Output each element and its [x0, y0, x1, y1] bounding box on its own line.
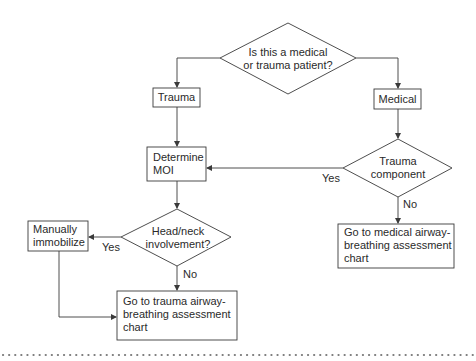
- medical-label: Medical: [374, 93, 421, 106]
- trauma-airway-line2: breathing assessment: [123, 308, 231, 321]
- trauma-text: Trauma: [153, 91, 200, 104]
- medical-airway-line3: chart: [344, 252, 452, 265]
- determine-moi-label: Determine MOI: [153, 151, 204, 177]
- immobilize-line1: Manually: [33, 223, 85, 236]
- immobilize-line2: immobilize: [33, 236, 85, 249]
- trauma-airway-line3: chart: [123, 321, 231, 334]
- headneck-line2: involvement?: [136, 238, 220, 251]
- trauma-component-yes-label: Yes: [322, 172, 340, 185]
- medical-airway-line2: breathing assessment: [344, 239, 452, 252]
- trauma-label: Trauma: [153, 91, 200, 104]
- manually-immobilize-label: Manually immobilize: [33, 223, 85, 249]
- medical-airway-label: Go to medical airway- breathing assessme…: [344, 226, 452, 265]
- component-line1: Trauma: [358, 155, 438, 168]
- edge-immobilize-trauma-airway: [59, 251, 116, 317]
- moi-line1: Determine: [153, 151, 204, 164]
- head-neck-no-label: No: [183, 268, 197, 281]
- trauma-component-label: Trauma component: [358, 155, 438, 181]
- moi-line2: MOI: [153, 164, 204, 177]
- component-line2: component: [358, 168, 438, 181]
- edge-start-trauma: [177, 58, 220, 87]
- edge-start-medical: [356, 58, 398, 88]
- start-line2: or trauma patient?: [230, 59, 346, 72]
- medical-text: Medical: [374, 93, 421, 106]
- start-line1: Is this a medical: [230, 46, 346, 59]
- head-neck-label: Head/neck involvement?: [136, 225, 220, 251]
- head-neck-yes-label: Yes: [102, 241, 120, 254]
- trauma-airway-label: Go to trauma airway- breathing assessmen…: [123, 295, 231, 334]
- start-decision-label: Is this a medical or trauma patient?: [230, 46, 346, 72]
- headneck-line1: Head/neck: [136, 225, 220, 238]
- trauma-airway-line1: Go to trauma airway-: [123, 295, 231, 308]
- medical-airway-line1: Go to medical airway-: [344, 226, 452, 239]
- trauma-component-no-label: No: [403, 198, 417, 211]
